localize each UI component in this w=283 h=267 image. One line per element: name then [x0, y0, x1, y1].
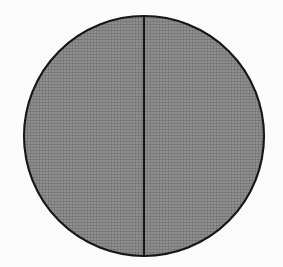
pie-chart-figure: [0, 0, 283, 267]
pie-chart-canvas: [0, 0, 283, 267]
